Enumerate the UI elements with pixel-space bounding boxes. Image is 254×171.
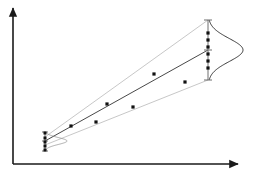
data-point-marker — [206, 45, 209, 48]
data-point-marker — [44, 132, 47, 135]
left-cluster-observations-series — [44, 132, 47, 152]
data-points-group — [44, 31, 210, 151]
right-normal-distribution-curve — [209, 20, 243, 80]
lower-confidence-band-line — [45, 80, 208, 145]
data-point-marker — [131, 105, 134, 108]
plot-canvas — [0, 0, 254, 171]
data-point-marker — [44, 141, 47, 144]
data-point-marker — [105, 102, 108, 105]
data-point-marker — [94, 120, 97, 123]
data-point-marker — [69, 124, 72, 127]
data-point-marker — [206, 59, 209, 62]
data-point-marker — [206, 52, 209, 55]
distribution-curves-group — [46, 20, 243, 150]
data-point-marker — [206, 38, 209, 41]
error-bars-group — [42, 20, 212, 151]
regression-confidence-band-figure — [0, 0, 254, 171]
data-point-marker — [206, 31, 209, 34]
data-point-marker — [44, 149, 47, 152]
data-point-marker — [44, 145, 47, 148]
upper-confidence-band-line — [45, 20, 208, 137]
data-point-marker — [152, 72, 155, 75]
observations-series — [69, 72, 186, 127]
data-point-marker — [183, 80, 186, 83]
data-point-marker — [44, 137, 47, 140]
right-error-bar — [204, 20, 212, 80]
data-point-marker — [206, 66, 209, 69]
